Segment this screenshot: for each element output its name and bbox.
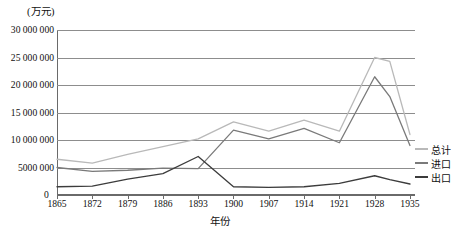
y-axis-tick-label: 25 000 000: [0, 53, 54, 63]
x-axis-tick-label: 1893: [178, 199, 218, 209]
x-axis-tick-label: 1886: [143, 199, 183, 209]
legend-swatch: [415, 176, 428, 178]
legend-swatch: [415, 162, 428, 164]
x-axis-tick-label: 1865: [37, 199, 77, 209]
y-axis-tick-label: 15 000 000: [0, 108, 54, 118]
series-lines: [57, 30, 415, 195]
x-axis-tick-label: 1872: [72, 199, 112, 209]
plot-area: [57, 30, 415, 195]
x-axis-tick-label: 1921: [319, 199, 359, 209]
series-line: [57, 157, 410, 188]
x-axis-tick-label: 1935: [390, 199, 430, 209]
x-axis-tick-label: 1900: [213, 199, 253, 209]
y-axis-tick-label: 30 000 000: [0, 25, 54, 35]
y-axis-tick-label: 10 000 000: [0, 135, 54, 145]
legend-item: 总计: [415, 142, 440, 156]
legend: 总计进口出口: [415, 142, 440, 184]
x-axis-tick-label: 1914: [284, 199, 324, 209]
legend-item: 出口: [415, 170, 440, 184]
legend-label: 进口: [431, 156, 451, 171]
legend-item: 进口: [415, 156, 440, 170]
legend-swatch: [415, 148, 428, 150]
y-axis-tick-label: 5000 000: [0, 163, 54, 173]
x-axis-tick-label: 1928: [355, 199, 395, 209]
y-axis-tick-label: 20 000 000: [0, 80, 54, 90]
x-axis-title: 年份: [0, 213, 440, 228]
gridline: [57, 195, 415, 196]
x-axis-tick-label: 1879: [108, 199, 148, 209]
x-axis-tick-label: 1907: [249, 199, 289, 209]
series-line: [57, 77, 410, 172]
legend-label: 总计: [431, 142, 451, 157]
legend-label: 出口: [431, 170, 451, 185]
